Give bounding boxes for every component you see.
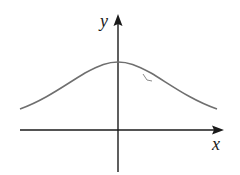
x-axis-label: x bbox=[212, 134, 220, 155]
curve-tick-mark bbox=[143, 74, 152, 81]
x-axis bbox=[20, 126, 224, 135]
y-axis-label: y bbox=[100, 11, 108, 32]
graph bbox=[0, 0, 240, 175]
y-axis bbox=[114, 14, 123, 172]
